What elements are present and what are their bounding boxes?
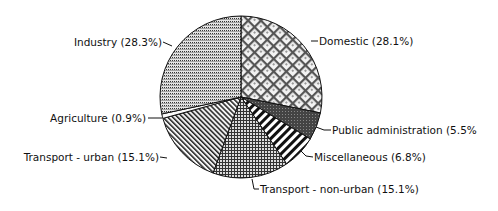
leader-transport-nonurban — [252, 179, 259, 189]
leader-transport-urban — [160, 157, 167, 158]
label-transport-urban: Transport - urban (15.1%) — [23, 151, 159, 163]
label-industry: Industry (28.3%) — [74, 36, 162, 48]
leader-industry — [163, 42, 172, 46]
pie-slice-industry — [160, 16, 241, 114]
label-domestic: Domestic (28.1%) — [319, 35, 413, 47]
label-agriculture: Agriculture (0.9%) — [50, 112, 146, 124]
label-transport-nonurban: Transport - non-urban (15.1%) — [259, 183, 419, 195]
label-public-administration: Public administration (5.5% — [332, 124, 477, 136]
pie-slice-domestic — [241, 16, 322, 113]
leader-public-admin — [316, 127, 331, 130]
pie-slices — [160, 16, 322, 178]
pie-chart: Domestic (28.1%) Public administration (… — [0, 0, 498, 211]
label-miscellaneous: Miscellaneous (6.8%) — [314, 151, 426, 163]
